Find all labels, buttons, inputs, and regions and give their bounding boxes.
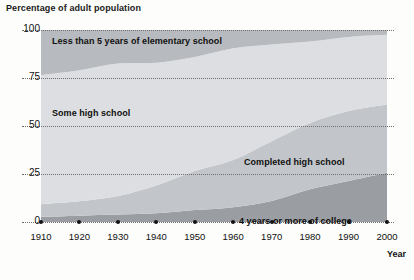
x-axis-tick-marker: [77, 220, 81, 224]
band-label-some-high-school: Some high school: [52, 108, 130, 118]
x-axis-tick-label: 1950: [175, 231, 215, 242]
x-axis-tick-label: 1920: [59, 231, 99, 242]
x-axis-tick-label: 1930: [98, 231, 138, 242]
band-label-elementary: Less than 5 years of elementary school: [52, 36, 222, 46]
x-axis-tick-label: 1960: [213, 231, 253, 242]
x-axis-tick-marker: [193, 220, 197, 224]
x-axis-tick-marker: [154, 220, 158, 224]
x-axis-tick-label: 1910: [21, 231, 61, 242]
x-axis-tick-marker: [116, 220, 120, 224]
x-axis-tick-label: 1990: [329, 231, 369, 242]
x-axis-tick-label: 2000: [367, 231, 407, 242]
band-label-college: 4 years or more of college: [239, 216, 352, 226]
band-label-completed-high-school: Completed high school: [244, 157, 345, 167]
x-axis-tick-marker: [39, 220, 43, 224]
x-axis-tick-marker: [231, 220, 235, 224]
x-axis-tick-label: 1980: [290, 231, 330, 242]
x-axis-label: Year: [387, 249, 406, 259]
x-axis-tick-label: 1970: [252, 231, 292, 242]
x-axis-tick-marker: [385, 220, 389, 224]
x-axis-tick-label: 1940: [136, 231, 176, 242]
